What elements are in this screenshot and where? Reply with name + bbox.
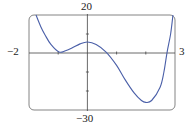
function-curve xyxy=(36,15,173,102)
y-max-label: 20 xyxy=(81,1,92,12)
y-min-label: −30 xyxy=(76,113,93,124)
x-max-label: 3 xyxy=(179,46,185,57)
axes xyxy=(29,14,175,111)
tick-marks xyxy=(58,34,146,91)
function-plot xyxy=(0,0,196,125)
viewing-rectangle xyxy=(29,15,175,110)
x-min-label: −2 xyxy=(7,46,19,57)
